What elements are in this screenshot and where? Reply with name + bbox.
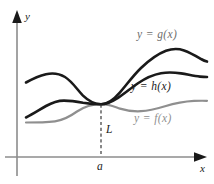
x-axis-label: x <box>200 163 205 174</box>
curve-label-h: y = h(x) <box>131 81 171 93</box>
x-axis-arrow-icon <box>194 152 207 162</box>
y-axis-label: y <box>25 11 30 22</box>
curve-label-f: y = f(x) <box>134 113 172 125</box>
curve-g <box>26 49 207 104</box>
point-label-a: a <box>97 161 103 173</box>
limit-label-L: L <box>106 124 112 136</box>
squeeze-theorem-figure: y x y = g(x) y = h(x) y = f(x) L a <box>0 0 214 184</box>
y-axis-arrow-icon <box>12 10 22 23</box>
graph-canvas <box>0 0 214 184</box>
curve-label-g: y = g(x) <box>137 29 177 41</box>
